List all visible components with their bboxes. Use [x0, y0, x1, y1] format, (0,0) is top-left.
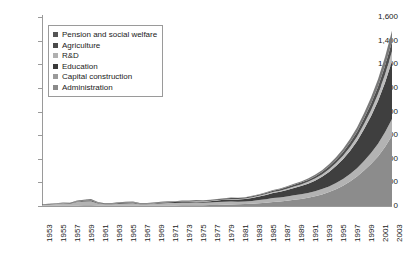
legend-item-label: R&D — [62, 51, 79, 60]
x-axis-tick-label: 1969 — [158, 224, 166, 242]
legend-swatch-icon — [53, 74, 58, 79]
legend-item-label: Agriculture — [62, 41, 100, 50]
x-axis-tick-label: 1997 — [354, 224, 362, 242]
legend-swatch-icon — [53, 43, 58, 48]
x-axis-tick-label: 1973 — [186, 224, 194, 242]
x-axis-tick-label: 1963 — [116, 224, 124, 242]
x-axis-tick-label: 1999 — [368, 224, 376, 242]
legend-item-label: Administration — [62, 83, 113, 92]
legend-item-label: Education — [62, 62, 98, 71]
x-axis-tick-label: 1993 — [326, 224, 334, 242]
x-axis-tick-label: 1975 — [200, 224, 208, 242]
x-axis-tick-label: 1987 — [284, 224, 292, 242]
x-axis-tick-label: 1965 — [130, 224, 138, 242]
legend-swatch-icon — [53, 53, 58, 58]
x-axis-tick-label: 1981 — [242, 224, 250, 242]
x-axis-tick-label: 1979 — [228, 224, 236, 242]
legend-item-label: Capital construction — [62, 72, 132, 81]
x-axis-line — [42, 206, 392, 207]
x-axis-tick-label: 1977 — [214, 224, 222, 242]
legend-swatch-icon — [53, 32, 58, 37]
legend-item[interactable]: Agriculture — [53, 40, 157, 50]
legend-swatch-icon — [53, 64, 58, 69]
legend-swatch-icon — [53, 85, 58, 90]
x-axis-tick-label: 1953 — [46, 224, 54, 242]
x-axis-tick-label: 1995 — [340, 224, 348, 242]
x-axis-tick-label: 1957 — [74, 224, 82, 242]
x-axis-tick-label: 1983 — [256, 224, 264, 242]
x-axis-tick-label: 1967 — [144, 224, 152, 242]
x-axis-tick-label: 1961 — [102, 224, 110, 242]
x-axis-tick-label: 1971 — [172, 224, 180, 242]
x-axis-tick-label: 2003 — [396, 224, 404, 242]
legend-item[interactable]: Pension and social welfare — [53, 30, 157, 40]
x-axis-tick-label: 1959 — [88, 224, 96, 242]
legend-item[interactable]: Administration — [53, 82, 157, 92]
legend-item-label: Pension and social welfare — [62, 30, 157, 39]
x-axis-tick-label: 1989 — [298, 224, 306, 242]
x-axis-tick-label: 1985 — [270, 224, 278, 242]
x-axis-tick-label: 2001 — [382, 224, 390, 242]
x-axis-tick-label: 1991 — [312, 224, 320, 242]
legend-item[interactable]: Capital construction — [53, 72, 157, 82]
x-axis-labels: 1953195519571959196119631965196719691971… — [42, 208, 392, 254]
legend-item[interactable]: Education — [53, 61, 157, 71]
x-axis-tick-label: 1955 — [60, 224, 68, 242]
legend-item[interactable]: R&D — [53, 51, 157, 61]
chart-legend: Pension and social welfareAgricultureR&D… — [48, 25, 163, 97]
